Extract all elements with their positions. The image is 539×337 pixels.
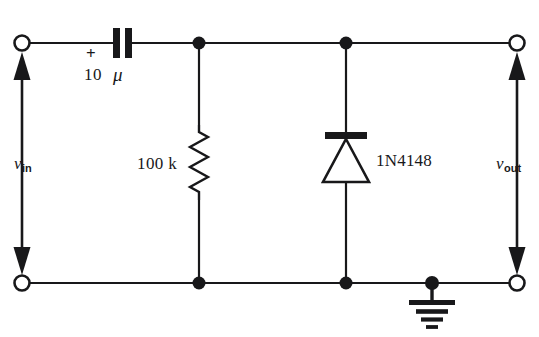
terminal-output-top xyxy=(510,36,525,51)
terminal-input-top xyxy=(15,36,30,51)
input-voltage-arrowhead-down xyxy=(14,247,31,275)
input-voltage-arrowhead-up xyxy=(14,52,31,80)
node-dot-ground xyxy=(425,276,439,290)
capacitor-value-label: 10 xyxy=(84,66,102,83)
resistor-zigzag-body xyxy=(190,125,208,200)
output-voltage-symbol: v xyxy=(496,154,504,173)
schematic-drawing xyxy=(0,0,539,337)
resistor-value-label: 100 k xyxy=(137,155,177,172)
output-voltage-label: vout xyxy=(496,155,521,172)
node-dot-capacitor-resistor xyxy=(193,37,206,50)
terminal-output-bottom xyxy=(510,276,525,291)
output-voltage-arrowhead-down xyxy=(509,247,526,275)
diode-anode-triangle xyxy=(323,139,369,182)
output-voltage-subscript: out xyxy=(504,162,521,174)
capacitor-unit-label: μ xyxy=(113,65,123,84)
output-voltage-arrowhead-up xyxy=(509,52,526,80)
diode-part-label: 1N4148 xyxy=(376,152,432,169)
node-dot-diode-output xyxy=(340,37,353,50)
node-dot-diode-return xyxy=(340,277,353,290)
capacitor-polarity-label: + xyxy=(86,45,96,62)
input-voltage-label: vin xyxy=(14,155,31,172)
terminal-input-bottom xyxy=(15,276,30,291)
input-voltage-subscript: in xyxy=(22,162,32,174)
circuit-diagram-canvas: + 10 μ 100 k 1N4148 vin vout xyxy=(0,0,539,337)
input-voltage-symbol: v xyxy=(14,154,22,173)
node-dot-resistor-return xyxy=(193,277,206,290)
